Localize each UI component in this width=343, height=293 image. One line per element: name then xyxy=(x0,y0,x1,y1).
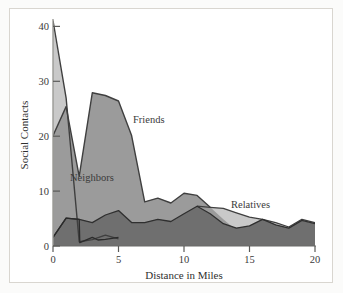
x-axis-title: Distance in Miles xyxy=(145,269,223,281)
x-tick-labels: 0 5 10 15 20 xyxy=(50,254,320,265)
x-tick-label-15: 15 xyxy=(244,254,255,265)
y-tick-labels: 0 10 20 30 40 xyxy=(39,21,50,252)
y-tick-label-40: 40 xyxy=(39,21,50,32)
x-tick-label-10: 10 xyxy=(179,254,190,265)
chart-series-fills xyxy=(53,25,315,246)
area-chart: 0 10 20 30 40 0 5 10 15 20 Distance in M… xyxy=(0,0,343,293)
y-axis-title: Social Contacts xyxy=(18,101,30,170)
y-tick-label-0: 0 xyxy=(44,241,49,252)
y-tick-label-10: 10 xyxy=(39,186,50,197)
series-label-neighbors: Neighbors xyxy=(70,172,114,183)
y-tick-label-20: 20 xyxy=(39,131,50,142)
series-label-friends: Friends xyxy=(133,114,165,125)
x-tick-label-5: 5 xyxy=(116,254,121,265)
y-tick-label-30: 30 xyxy=(39,76,50,87)
series-label-relatives: Relatives xyxy=(231,199,270,210)
figure-canvas: 0 10 20 30 40 0 5 10 15 20 Distance in M… xyxy=(0,0,343,293)
x-tick-label-20: 20 xyxy=(310,254,321,265)
x-tick-label-0: 0 xyxy=(50,254,55,265)
